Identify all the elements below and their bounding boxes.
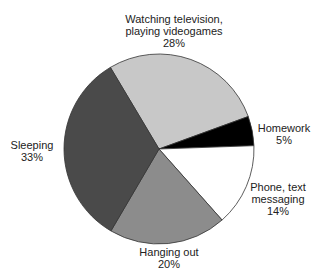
label-text: Sleeping	[11, 139, 54, 151]
pie-chart: Watching television, playing videogames …	[0, 0, 317, 274]
label-homework: Homework 5%	[258, 122, 311, 146]
label-watching-tv: Watching television, playing videogames …	[125, 13, 223, 49]
label-sleeping: Sleeping 33%	[11, 139, 54, 163]
label-text: messaging	[251, 193, 304, 205]
label-text: Homework	[258, 122, 311, 134]
label-value: 28%	[163, 37, 185, 49]
label-phone-texting: Phone, text messaging 14%	[250, 181, 306, 217]
label-text: playing videogames	[125, 25, 223, 37]
label-value: 20%	[158, 258, 180, 270]
label-hanging-out: Hanging out 20%	[139, 246, 198, 270]
label-text: Hanging out	[139, 246, 198, 258]
pie-slices	[64, 54, 254, 244]
label-text: Phone, text	[250, 181, 306, 193]
label-value: 14%	[267, 205, 289, 217]
label-text: Watching television,	[125, 13, 222, 25]
label-value: 33%	[21, 151, 43, 163]
label-value: 5%	[276, 134, 292, 146]
